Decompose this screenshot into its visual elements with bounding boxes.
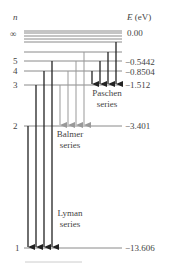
energy-symbol: E: [127, 12, 133, 22]
balmer-arrows: [60, 52, 84, 125]
energy-value-4: −0.8504: [125, 67, 155, 77]
level-label-3: 3: [13, 80, 18, 90]
paschen-label-line1: Paschen: [85, 88, 129, 99]
level-label-4: 4: [13, 66, 18, 76]
level-label-1: 1: [15, 243, 20, 253]
energy-value-1: −13.606: [125, 243, 155, 253]
paschen-series-label: Paschen series: [85, 88, 129, 110]
energy-unit: (eV): [135, 12, 152, 22]
level-label-2: 2: [13, 121, 18, 131]
balmer-label-line1: Balmer: [48, 129, 92, 140]
lyman-label-line1: Lyman: [48, 208, 92, 219]
lyman-label-line2: series: [48, 219, 92, 230]
paschen-arrows: [92, 42, 116, 84]
axis-label-energy: E (eV): [127, 12, 151, 22]
energy-value-inf: 0.00: [127, 28, 143, 38]
axis-label-n: n: [13, 12, 18, 22]
paschen-label-line2: series: [85, 99, 129, 110]
energy-value-5: −0.5442: [125, 57, 155, 67]
lyman-series-label: Lyman series: [48, 208, 92, 230]
energy-value-2: −3.401: [125, 121, 150, 131]
balmer-label-line2: series: [48, 140, 92, 151]
level-label-inf: ∞: [10, 29, 16, 39]
level-label-5: 5: [13, 56, 18, 66]
balmer-series-label: Balmer series: [48, 129, 92, 151]
